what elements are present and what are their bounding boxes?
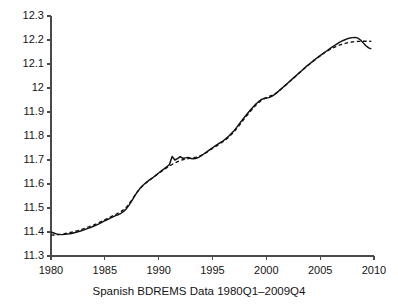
y-tick-label: 11.9	[23, 105, 44, 117]
y-tick-label: 11.3	[23, 249, 44, 261]
y-axis-ticks	[47, 16, 51, 256]
x-tick-label: 2005	[295, 264, 345, 276]
y-tick-label: 12.1	[23, 57, 44, 69]
y-tick-label: 12.3	[23, 9, 44, 21]
series-line-fitted	[51, 41, 371, 235]
x-tick-label: 2010	[349, 264, 398, 276]
chart-plot-area	[0, 0, 398, 308]
x-axis-ticks	[51, 256, 374, 260]
y-tick-label: 11.6	[23, 177, 44, 189]
x-tick-label: 2000	[241, 264, 291, 276]
data-series-layer	[51, 37, 371, 235]
y-tick-label: 12.2	[23, 33, 44, 45]
x-tick-label: 1980	[26, 264, 76, 276]
y-tick-label: 12	[32, 81, 44, 93]
y-tick-label: 11.8	[23, 129, 44, 141]
x-axis-label: Spanish BDREMS Data 1980Q1–2009Q4	[0, 285, 398, 297]
y-tick-label: 11.7	[23, 153, 44, 165]
x-tick-label: 1990	[134, 264, 184, 276]
y-tick-label: 11.5	[23, 201, 44, 213]
series-line-observed	[51, 37, 371, 234]
x-tick-label: 1995	[188, 264, 238, 276]
chart-figure: 11.311.411.511.611.711.811.91212.112.212…	[0, 0, 398, 308]
y-tick-label: 11.4	[23, 225, 44, 237]
x-tick-label: 1985	[80, 264, 130, 276]
